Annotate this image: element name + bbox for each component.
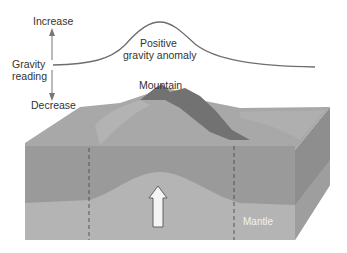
increase-label: Increase xyxy=(33,15,73,27)
gravity-label-line1: Gravity xyxy=(12,58,45,70)
mantle-label: Mantle xyxy=(243,216,273,228)
curve-label-line1: Positive xyxy=(140,37,177,49)
mountain-label: Mountain xyxy=(139,79,182,91)
decrease-label: Decrease xyxy=(31,99,76,111)
curve-label-line2: gravity anomaly xyxy=(123,49,197,61)
gravity-label-line2: reading xyxy=(12,70,47,82)
up-arrow-icon xyxy=(49,28,55,36)
